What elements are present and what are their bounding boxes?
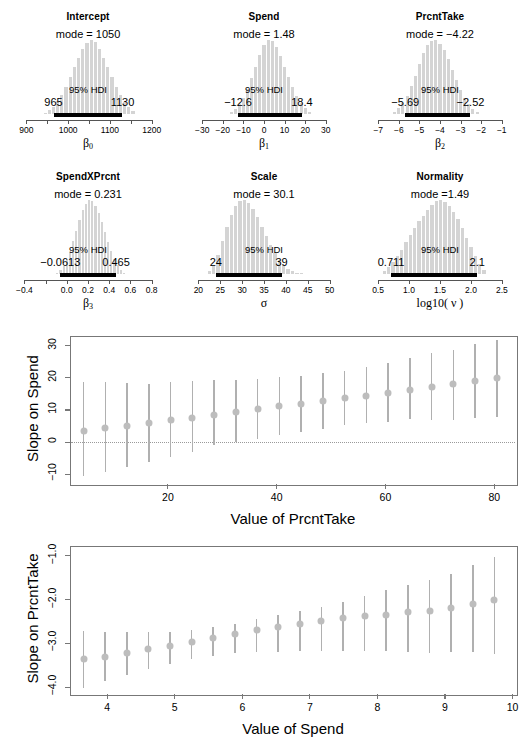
axis-tick-label: 20 — [194, 285, 203, 295]
data-point — [298, 400, 305, 407]
data-point — [80, 428, 87, 435]
data-point — [232, 408, 239, 415]
hdi-label: 95% HDI — [0, 84, 176, 95]
y-axis-tick-label: −3.0 — [46, 627, 58, 655]
axis-tick — [308, 280, 309, 284]
hdi-bar — [391, 273, 477, 277]
x-axis-tick — [242, 694, 243, 699]
x-axis-tick — [107, 694, 108, 699]
x-axis-tick-label: 8 — [375, 701, 381, 713]
axis-tick — [131, 120, 132, 124]
posterior-panel-spend: Spendmode = 1.4895% HDI−12.618.4−30−20−1… — [176, 0, 352, 160]
axis-tick-label: −0.4 — [16, 285, 33, 295]
axis-tick-label: 0.0 — [61, 285, 73, 295]
credible-interval-line — [385, 590, 387, 651]
histogram-bar — [265, 236, 268, 274]
axis-tick-label: 45 — [303, 285, 312, 295]
mode-label: mode = −4.22 — [352, 28, 528, 40]
data-point — [491, 597, 498, 604]
hdi-low-value: 0.711 — [378, 256, 405, 268]
axis-tick — [419, 120, 420, 124]
histogram-bar — [251, 209, 254, 274]
hdi-label: 95% HDI — [176, 244, 352, 255]
y-axis-tick — [65, 474, 70, 475]
axis-tick — [242, 280, 243, 284]
errorbar-panel-slope-on-prcnttake: −4.0−3.0−2.0−1.045678910Slope on PrcntTa… — [0, 532, 529, 740]
histogram-bar — [243, 200, 246, 274]
y-axis-tick — [65, 555, 70, 556]
histogram-bar — [275, 47, 278, 114]
histogram-bar — [476, 112, 479, 114]
histogram-bar — [94, 206, 96, 274]
histogram-bar — [295, 273, 298, 274]
hdi-bar — [216, 273, 282, 277]
data-point — [341, 395, 348, 402]
y-axis-tick — [65, 643, 70, 644]
histogram-bar — [127, 107, 130, 114]
data-point — [167, 416, 174, 423]
histogram-bar — [94, 42, 97, 114]
data-point — [211, 411, 218, 418]
x-axis: −0.40.00.20.40.60.8 — [18, 280, 158, 281]
data-point — [296, 620, 303, 627]
axis-tick — [399, 120, 400, 124]
histogram-bar — [267, 40, 270, 114]
hdi-low-value: −12.6 — [224, 96, 252, 108]
y-axis-label: Slope on PrcntTake — [24, 539, 41, 699]
data-point — [276, 403, 283, 410]
credible-interval-line — [494, 557, 496, 654]
axis-tick-label: 20 — [300, 125, 309, 135]
axis-tick — [286, 280, 287, 284]
hdi-high-value: 0.465 — [102, 256, 130, 268]
posterior-panel-intercept: Interceptmode = 105095% HDI9651130900100… — [0, 0, 176, 160]
data-point — [210, 635, 217, 642]
data-point — [428, 384, 435, 391]
axis-tick-label: −5 — [415, 125, 425, 135]
histogram-bar — [44, 113, 47, 114]
axis-tick-label: 40 — [281, 285, 290, 295]
axis-tick-label: 25 — [216, 285, 225, 295]
plot-frame — [70, 336, 518, 486]
axis-tick — [88, 280, 89, 284]
x-axis-tick-label: 80 — [488, 491, 500, 503]
data-point — [253, 627, 260, 634]
histogram-bar — [304, 108, 307, 114]
histogram-bar — [234, 109, 237, 114]
posterior-panel-normality: Normalitymode =1.4995% HDI0.7112.10.51.0… — [352, 160, 528, 320]
axis-tick — [202, 120, 203, 124]
axis-tick — [220, 280, 221, 284]
y-axis-tick-label: 10 — [46, 394, 58, 422]
x-axis-label: β1 — [176, 136, 352, 151]
histogram-bar — [452, 212, 455, 274]
histogram-bar — [387, 267, 390, 274]
x-axis-label: β3 — [0, 296, 176, 311]
credible-interval-line — [450, 574, 452, 652]
credible-interval-line — [321, 607, 323, 652]
x-axis-tick-label: 9 — [442, 701, 448, 713]
data-point — [275, 623, 282, 630]
axis-tick — [378, 120, 379, 124]
histogram — [194, 40, 334, 114]
y-axis-tick — [65, 442, 70, 443]
data-point — [363, 392, 370, 399]
x-axis-tick-label: 20 — [162, 491, 174, 503]
data-point — [318, 618, 325, 625]
histogram-bar — [426, 210, 429, 274]
axis-tick — [152, 280, 153, 284]
credible-interval-line — [256, 619, 258, 652]
data-point — [188, 638, 195, 645]
axis-tick-label: −2 — [476, 125, 486, 135]
hdi-high-value: −2.52 — [457, 96, 485, 108]
data-point — [493, 375, 500, 382]
x-axis: −30−20−100102030 — [194, 120, 334, 121]
axis-tick-label: 0.8 — [146, 285, 158, 295]
axis-tick-label: −4 — [435, 125, 445, 135]
histogram-bar — [69, 77, 72, 114]
axis-tick — [440, 280, 441, 284]
axis-tick — [152, 120, 153, 124]
panel-title: SpendXPrcnt — [0, 171, 176, 182]
axis-tick — [46, 280, 47, 284]
x-axis-label: β0 — [0, 136, 176, 151]
y-axis-tick-label: 0 — [46, 426, 58, 454]
axis-tick — [223, 120, 224, 124]
